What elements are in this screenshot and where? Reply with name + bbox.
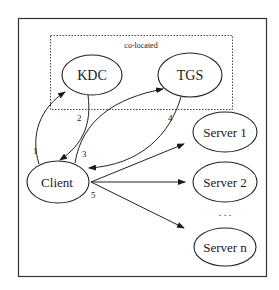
- node-server-1: Server 1: [193, 112, 257, 152]
- node-server-n-label: Server n: [203, 240, 247, 255]
- group-label: co-located: [124, 41, 157, 50]
- edge-5-label: 5: [91, 190, 96, 200]
- edge-5-client-to-server-1: [91, 144, 184, 182]
- edge-1-label: 1: [33, 146, 38, 156]
- edge-2-label: 2: [77, 113, 82, 123]
- node-server-2-label: Server 2: [203, 175, 247, 190]
- node-client: Client: [27, 161, 89, 203]
- node-tgs-label: TGS: [177, 68, 203, 83]
- edge-4-tgs-to-client: [89, 97, 181, 168]
- node-kdc-label: KDC: [77, 68, 107, 83]
- edge-4-label: 4: [168, 113, 173, 123]
- servers-ellipsis: . . .: [219, 207, 232, 218]
- node-kdc: KDC: [62, 55, 122, 95]
- edge-5-client-to-server-n: [91, 182, 184, 228]
- node-server-2: Server 2: [193, 162, 257, 202]
- node-client-label: Client: [41, 175, 73, 190]
- node-tgs: TGS: [158, 53, 222, 97]
- node-server-n: Server n: [194, 228, 256, 266]
- node-server-1-label: Server 1: [203, 125, 247, 140]
- kerberos-diagram: co-located KDC TGS Client Server 1 Serve…: [0, 0, 279, 290]
- edge-3-label: 3: [82, 149, 87, 159]
